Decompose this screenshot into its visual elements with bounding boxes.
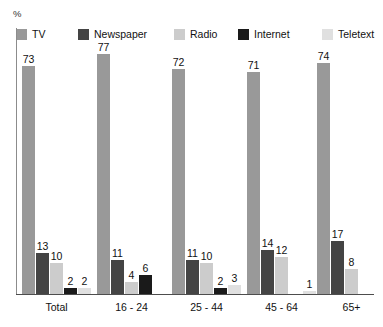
y-axis-title: % [13,8,21,19]
x-axis-label: 65+ [303,300,383,314]
x-axis-line [16,294,374,295]
bar-value-label: 71 [242,60,265,71]
bar-value-label: 10 [195,251,218,262]
bar[interactable] [303,291,316,294]
bar[interactable] [345,269,358,294]
bar-value-label: 12 [270,245,293,256]
bar-value-label: 74 [312,51,335,62]
bar-group: 72111023 [172,38,241,294]
bar[interactable] [64,288,77,294]
bar-value-label: 6 [134,263,157,274]
bar[interactable] [261,250,274,294]
bar[interactable] [78,288,91,294]
bar[interactable] [317,63,330,294]
bar[interactable] [172,69,185,294]
bar-value-label: 77 [92,42,115,53]
bar[interactable] [275,257,288,294]
bar-group: 74178 [317,38,383,294]
bar[interactable] [125,282,138,294]
bar[interactable] [228,285,241,294]
bar-group: 7114121 [247,38,316,294]
bar[interactable] [22,66,35,294]
bar-value-label: 8 [340,257,363,268]
bar[interactable] [247,72,260,294]
bar-value-label: 72 [167,57,190,68]
bar-group: 771146 [97,38,166,294]
bar-value-label: 73 [17,54,40,65]
bar-chart: % TVNewspaperRadioInternetTeletext 73131… [0,0,383,327]
bar-value-label: 3 [223,273,246,284]
bar-value-label: 17 [326,229,349,240]
bar-value-label: 11 [106,248,129,259]
bar[interactable] [186,260,199,294]
x-axis-category-labels: Total16 - 2425 - 4445 - 6465+ [17,300,374,316]
bar[interactable] [214,288,227,294]
bar-value-label: 2 [73,276,96,287]
bar-group: 73131022 [22,38,91,294]
bar-value-label: 10 [45,251,68,262]
plot-area: 7313102277114672111023711412174178 [17,38,374,294]
bar[interactable] [139,275,152,294]
